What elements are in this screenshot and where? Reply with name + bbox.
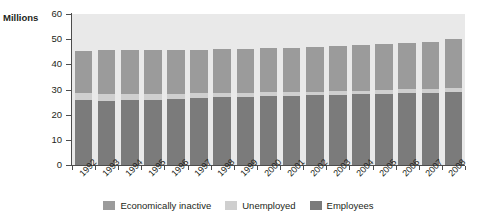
bar-segment-economically-inactive[interactable]	[121, 50, 139, 94]
y-axis-tick	[66, 14, 71, 15]
bar-segment-employees[interactable]	[98, 101, 116, 165]
bar-column[interactable]	[121, 14, 139, 165]
bar-column[interactable]	[329, 14, 347, 165]
bar-column[interactable]	[375, 14, 393, 165]
bar-segment-employees[interactable]	[375, 94, 393, 165]
cropped-title-sliver	[0, 0, 477, 2]
bar-segment-employees[interactable]	[190, 98, 208, 165]
bar-column[interactable]	[237, 14, 255, 165]
bar-segment-employees[interactable]	[213, 97, 231, 165]
bar-segment-employees[interactable]	[121, 100, 139, 165]
bar-segment-unemployed[interactable]	[213, 93, 231, 97]
bar-segment-employees[interactable]	[398, 93, 416, 165]
bar-segment-economically-inactive[interactable]	[167, 50, 185, 94]
bar-segment-unemployed[interactable]	[445, 88, 463, 92]
bar-segment-economically-inactive[interactable]	[329, 46, 347, 91]
bar-column[interactable]	[144, 14, 162, 165]
legend-item-2[interactable]: Employees	[310, 200, 374, 211]
bar-segment-economically-inactive[interactable]	[237, 49, 255, 93]
bar-column[interactable]	[283, 14, 301, 165]
bar-segment-employees[interactable]	[306, 95, 324, 165]
bar-segment-employees[interactable]	[445, 92, 463, 165]
bar-column[interactable]	[398, 14, 416, 165]
bar-segment-employees[interactable]	[75, 100, 93, 165]
bar-segment-economically-inactive[interactable]	[398, 43, 416, 89]
y-axis-tick-label: 30	[22, 85, 62, 95]
bar-segment-unemployed[interactable]	[375, 90, 393, 94]
bar-segment-economically-inactive[interactable]	[375, 44, 393, 90]
bar-segment-economically-inactive[interactable]	[144, 50, 162, 94]
bar-segment-unemployed[interactable]	[352, 91, 370, 95]
bar-segment-economically-inactive[interactable]	[306, 47, 324, 91]
bar-column[interactable]	[75, 14, 93, 165]
bar-segment-economically-inactive[interactable]	[352, 45, 370, 91]
y-axis-tick-label: 60	[22, 9, 62, 19]
bar-segment-economically-inactive[interactable]	[190, 50, 208, 94]
stacked-bar-chart: Millions 0102030405060 19921993199419951…	[0, 0, 477, 220]
bar-segment-unemployed[interactable]	[75, 93, 93, 100]
legend-label: Employees	[327, 200, 374, 211]
legend-swatch-icon	[310, 201, 322, 210]
bar-segment-unemployed[interactable]	[190, 93, 208, 98]
y-axis-tick-label: 50	[22, 34, 62, 44]
bar-segment-economically-inactive[interactable]	[283, 48, 301, 92]
legend-swatch-icon	[103, 201, 115, 210]
y-axis-tick	[66, 90, 71, 91]
bar-segment-employees[interactable]	[237, 97, 255, 165]
y-axis-tick	[66, 64, 71, 65]
bar-segment-economically-inactive[interactable]	[422, 42, 440, 89]
bar-segment-unemployed[interactable]	[398, 89, 416, 93]
bar-column[interactable]	[213, 14, 231, 165]
bar-segment-employees[interactable]	[144, 100, 162, 165]
legend-item-1[interactable]: Unemployed	[225, 200, 295, 211]
legend-label: Unemployed	[242, 200, 295, 211]
bar-segment-employees[interactable]	[422, 93, 440, 165]
bar-segment-unemployed[interactable]	[283, 92, 301, 96]
y-axis-tick-label: 10	[22, 135, 62, 145]
y-axis-tick	[66, 39, 71, 40]
bar-column[interactable]	[352, 14, 370, 165]
bar-column[interactable]	[260, 14, 278, 165]
bar-column[interactable]	[167, 14, 185, 165]
legend-label: Economically inactive	[120, 200, 211, 211]
bar-segment-economically-inactive[interactable]	[445, 39, 463, 88]
bar-segment-unemployed[interactable]	[98, 94, 116, 101]
y-axis-tick-label: 40	[22, 59, 62, 69]
bar-segment-unemployed[interactable]	[329, 91, 347, 95]
bar-segment-unemployed[interactable]	[260, 92, 278, 96]
bar-segment-employees[interactable]	[260, 96, 278, 165]
y-axis-tick	[66, 115, 71, 116]
bar-segment-unemployed[interactable]	[306, 92, 324, 96]
x-axis-tick	[465, 166, 466, 170]
bars-layer	[72, 14, 465, 165]
bar-segment-unemployed[interactable]	[167, 94, 185, 99]
bar-segment-economically-inactive[interactable]	[213, 49, 231, 93]
y-axis-tick	[66, 165, 71, 166]
bar-column[interactable]	[190, 14, 208, 165]
x-axis-tick	[72, 166, 73, 170]
legend-swatch-icon	[225, 201, 237, 210]
y-axis-tick	[66, 140, 71, 141]
legend-item-0[interactable]: Economically inactive	[103, 200, 211, 211]
bar-segment-employees[interactable]	[329, 95, 347, 165]
bar-segment-unemployed[interactable]	[121, 94, 139, 101]
bar-segment-economically-inactive[interactable]	[75, 51, 93, 94]
bar-column[interactable]	[422, 14, 440, 165]
bar-segment-economically-inactive[interactable]	[260, 48, 278, 92]
bar-segment-employees[interactable]	[352, 94, 370, 165]
y-axis-tick-label: 20	[22, 110, 62, 120]
bar-segment-unemployed[interactable]	[144, 94, 162, 100]
bar-segment-economically-inactive[interactable]	[98, 50, 116, 93]
bar-segment-unemployed[interactable]	[237, 93, 255, 97]
y-axis-tick-label: 0	[22, 160, 62, 170]
bar-segment-employees[interactable]	[283, 96, 301, 165]
bar-segment-employees[interactable]	[167, 99, 185, 165]
chart-legend: Economically inactiveUnemployedEmployees	[0, 200, 477, 211]
bar-column[interactable]	[98, 14, 116, 165]
bar-column[interactable]	[306, 14, 324, 165]
bar-segment-unemployed[interactable]	[422, 89, 440, 93]
bar-column[interactable]	[445, 14, 463, 165]
